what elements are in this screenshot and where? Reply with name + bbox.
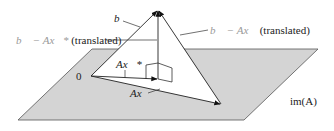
- leader-b-minus-ax: [180, 30, 208, 35]
- label-ax: Ax⃗: [130, 88, 150, 99]
- least-squares-diagram: b⃗ b⃗ − Ax⃗* (translated) b⃗ − Ax⃗ (tran…: [0, 0, 334, 131]
- diagram-canvas: [0, 0, 334, 131]
- label-origin: 0: [76, 71, 82, 82]
- label-ax-star: Ax⃗*: [116, 59, 142, 70]
- label-plane: im(A): [290, 96, 317, 107]
- label-b: b⃗: [114, 13, 128, 24]
- label-b-minus-ax: b⃗ − Ax⃗ (translated): [210, 25, 310, 36]
- label-b-minus-ax-star: b⃗ − Ax⃗* (translated): [16, 35, 121, 46]
